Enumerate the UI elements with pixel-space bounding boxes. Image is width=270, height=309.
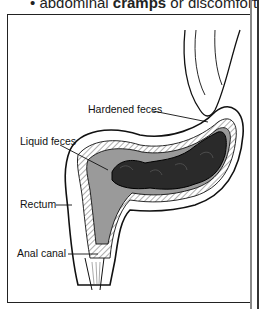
label-liquid-feces: Liquid feces	[20, 135, 76, 147]
colon-illustration	[0, 0, 270, 309]
label-anal-canal: Anal canal	[17, 247, 66, 259]
label-rectum: Rectum	[20, 198, 56, 210]
label-hardened-feces: Hardened feces	[88, 103, 162, 115]
